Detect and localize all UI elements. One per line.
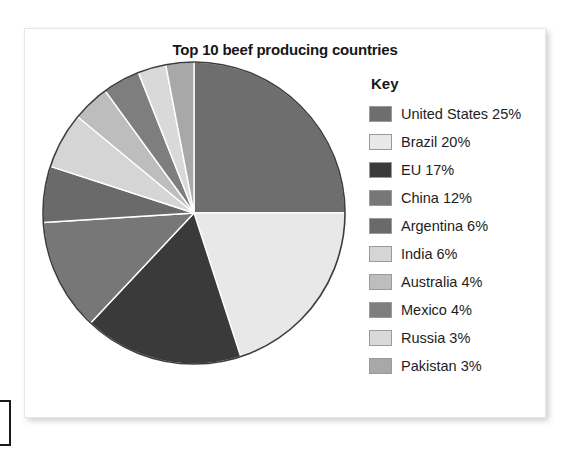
- legend-swatch: [369, 162, 392, 178]
- pie-slice: [194, 62, 345, 213]
- legend-swatch: [369, 218, 392, 234]
- legend-swatch: [369, 246, 392, 262]
- legend-swatch: [369, 274, 392, 290]
- legend-label: Argentina 6%: [401, 219, 488, 234]
- legend-swatch: [369, 106, 392, 122]
- legend-label: Brazil 20%: [401, 135, 470, 150]
- legend-item: EU 17%: [369, 156, 539, 184]
- legend-label: China 12%: [401, 191, 472, 206]
- pie-chart: [42, 61, 346, 365]
- legend-label: Australia 4%: [401, 275, 482, 290]
- legend-item: India 6%: [369, 240, 539, 268]
- figure-frame: Top 10 beef producing countries Key Unit…: [24, 28, 546, 418]
- legend-label: Mexico 4%: [401, 303, 472, 318]
- legend-swatch: [369, 330, 392, 346]
- legend-item: United States 25%: [369, 100, 539, 128]
- legend-rows: United States 25%Brazil 20%EU 17%China 1…: [369, 100, 539, 380]
- page-edge-bracket-mark: [0, 400, 11, 446]
- pie-slice-group: [43, 62, 345, 364]
- legend-item: China 12%: [369, 184, 539, 212]
- legend-swatch: [369, 134, 392, 150]
- legend-label: United States 25%: [401, 107, 521, 122]
- legend-title: Key: [371, 75, 539, 92]
- chart-title: Top 10 beef producing countries: [25, 41, 545, 58]
- legend-label: Russia 3%: [401, 331, 470, 346]
- legend-item: Pakistan 3%: [369, 352, 539, 380]
- legend-item: Russia 3%: [369, 324, 539, 352]
- pie-chart-svg: [42, 61, 346, 365]
- legend-item: Australia 4%: [369, 268, 539, 296]
- legend-label: Pakistan 3%: [401, 359, 482, 374]
- legend-swatch: [369, 302, 392, 318]
- legend-label: India 6%: [401, 247, 457, 262]
- legend-item: Mexico 4%: [369, 296, 539, 324]
- legend: Key United States 25%Brazil 20%EU 17%Chi…: [369, 75, 539, 380]
- legend-label: EU 17%: [401, 163, 454, 178]
- legend-swatch: [369, 190, 392, 206]
- legend-item: Brazil 20%: [369, 128, 539, 156]
- legend-swatch: [369, 358, 392, 374]
- legend-item: Argentina 6%: [369, 212, 539, 240]
